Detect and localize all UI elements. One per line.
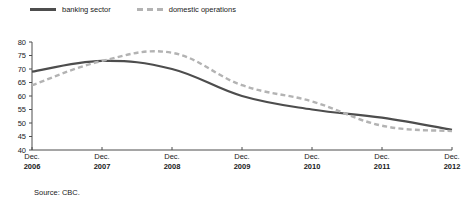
series-line-banking-sector xyxy=(32,61,452,130)
legend-entry-banking-sector: banking sector xyxy=(30,5,111,14)
y-axis-tick-label: 70 xyxy=(18,65,26,74)
data-series-layer xyxy=(32,51,452,131)
legend-label-domestic-operations: domestic operations xyxy=(169,5,236,14)
chart-figure: banking sector domestic operations 40455… xyxy=(0,0,466,209)
y-axis-tick-label: 55 xyxy=(18,105,26,114)
legend-label-banking-sector: banking sector xyxy=(62,5,111,14)
x-tick-month: Dec. xyxy=(422,152,466,162)
solid-line-icon xyxy=(30,8,56,11)
legend-entry-domestic-operations: domestic operations xyxy=(137,5,236,14)
x-tick-year: 2012 xyxy=(422,162,466,172)
x-tick-month: Dec. xyxy=(72,152,132,162)
x-axis-tick-label: Dec.2011 xyxy=(352,152,412,171)
x-axis-tick-label: Dec.2006 xyxy=(2,152,62,171)
y-axis-tick-label: 60 xyxy=(18,92,26,101)
x-axis-tick-label: Dec.2008 xyxy=(142,152,202,171)
x-tick-year: 2007 xyxy=(72,162,132,172)
x-axis-tick-label: Dec.2009 xyxy=(212,152,272,171)
x-tick-month: Dec. xyxy=(282,152,342,162)
x-tick-year: 2009 xyxy=(212,162,272,172)
dashed-line-icon xyxy=(137,8,163,11)
y-axis-tick-label: 75 xyxy=(18,51,26,60)
x-tick-year: 2006 xyxy=(2,162,62,172)
x-tick-year: 2010 xyxy=(282,162,342,172)
x-axis-tick-label: Dec.2012 xyxy=(422,152,466,171)
x-tick-month: Dec. xyxy=(142,152,202,162)
source-note: Source: CBC. xyxy=(34,188,80,197)
chart-legend: banking sector domestic operations xyxy=(30,2,236,16)
x-tick-month: Dec. xyxy=(212,152,272,162)
y-axis-ticks: 404550556065707580 xyxy=(18,38,32,155)
x-axis-tick-label: Dec.2010 xyxy=(282,152,342,171)
y-axis-tick-label: 65 xyxy=(18,78,26,87)
x-tick-year: 2011 xyxy=(352,162,412,172)
x-tick-month: Dec. xyxy=(2,152,62,162)
x-tick-month: Dec. xyxy=(352,152,412,162)
chart-svg: 404550556065707580 xyxy=(0,18,466,158)
x-axis-labels: Dec.2006Dec.2007Dec.2008Dec.2009Dec.2010… xyxy=(0,152,466,178)
y-axis-tick-label: 50 xyxy=(18,119,26,128)
y-axis-tick-label: 80 xyxy=(18,38,26,47)
y-axis-tick-label: 45 xyxy=(18,132,26,141)
x-tick-year: 2008 xyxy=(142,162,202,172)
x-axis-tick-label: Dec.2007 xyxy=(72,152,132,171)
plot-area: 404550556065707580 xyxy=(0,18,466,158)
